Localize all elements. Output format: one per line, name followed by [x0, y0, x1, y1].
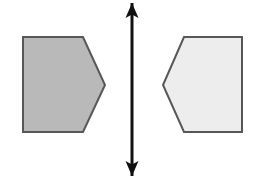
figure-canvas — [0, 0, 256, 179]
symmetry-diagram-svg — [0, 0, 256, 179]
